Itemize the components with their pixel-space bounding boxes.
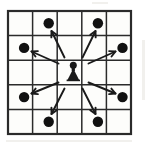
- dot-r2c1: [19, 43, 29, 53]
- dot-r5c2: [44, 117, 54, 127]
- dot-r4c5: [117, 92, 127, 102]
- knight-piece-foot: [67, 80, 80, 82]
- board-background: [8, 11, 131, 134]
- dot-r1c4: [93, 18, 103, 28]
- dot-r4c1: [19, 92, 29, 102]
- knight-move-figure: [0, 0, 147, 144]
- dot-r1c2: [44, 18, 54, 28]
- dot-r2c5: [117, 43, 127, 53]
- dot-r5c4: [93, 117, 103, 127]
- chessboard-diagram: [0, 0, 147, 144]
